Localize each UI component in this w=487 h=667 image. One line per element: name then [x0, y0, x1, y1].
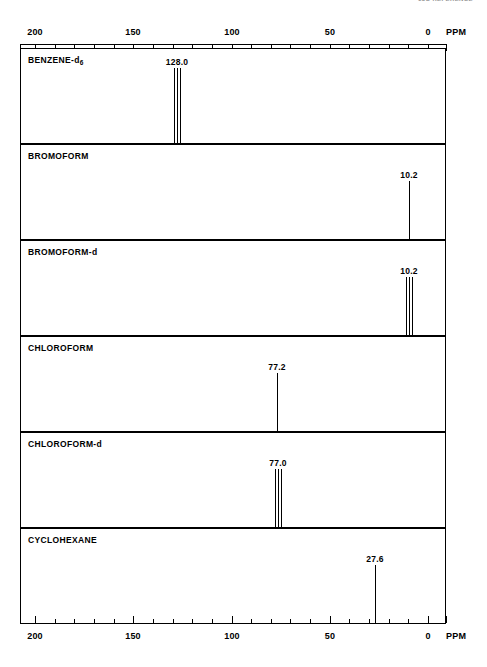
spectrum-peak-line: [281, 469, 282, 527]
axis-cap-right: [446, 44, 447, 51]
panel-compound-label: CYCLOHEXANE: [28, 535, 97, 545]
panel-compound-label: BROMOFORM: [28, 151, 89, 161]
spectrum-peak-line: [277, 373, 278, 431]
axis-tick-label: 0: [425, 631, 430, 641]
axis-tick-label: 50: [325, 27, 335, 37]
panel-compound-label: BENZENE-d6: [28, 55, 84, 65]
axis-unit-label: PPM: [446, 631, 466, 641]
axis-tick-minor: [310, 619, 311, 623]
axis-tick-minor: [192, 619, 193, 623]
bottom-axis: [20, 623, 446, 624]
axis-tick-label: 50: [325, 631, 335, 641]
spectrum-panel: CHLOROFORM-d77.0: [20, 432, 446, 528]
axis-tick-major: [428, 616, 429, 623]
panel-compound-label: CHLOROFORM-d: [28, 439, 102, 449]
axis-tick-minor: [408, 619, 409, 623]
axis-tick-major: [133, 616, 134, 623]
spectrum-peak-line: [406, 277, 407, 335]
spectrum-panel: CYCLOHEXANE27.6: [20, 528, 446, 624]
axis-tick-label: 200: [27, 27, 43, 37]
axis-tick-minor: [271, 619, 272, 623]
axis-cap-left: [20, 616, 21, 623]
axis-tick-minor: [94, 619, 95, 623]
axis-tick-label: 100: [224, 27, 240, 37]
axis-tick-major: [330, 616, 331, 623]
peak-shift-label: 128.0: [166, 57, 188, 67]
panel-compound-label: BROMOFORM-d: [28, 247, 97, 257]
spectrum-peak-line: [409, 277, 410, 335]
peak-shift-label: 10.2: [400, 266, 417, 276]
spectrum-peak-line: [177, 68, 178, 143]
axis-tick-minor: [290, 619, 291, 623]
peak-shift-label: 77.2: [268, 362, 285, 372]
axis-tick-minor: [251, 619, 252, 623]
spectrum-panel: BROMOFORM10.2: [20, 144, 446, 240]
axis-tick-minor: [212, 619, 213, 623]
axis-tick-label: 100: [224, 631, 240, 641]
peak-shift-label: 77.0: [269, 458, 286, 468]
axis-tick-minor: [389, 619, 390, 623]
nmr-reference-chart: 13C REFERENCE 200150100500PPM BENZENE-d6…: [0, 0, 487, 667]
spectrum-peak-line: [409, 181, 410, 239]
axis-tick-minor: [173, 619, 174, 623]
panel-compound-subscript: 6: [80, 59, 84, 66]
top-axis: [20, 44, 446, 45]
spectrum-panel: BENZENE-d6128.0: [20, 48, 446, 144]
axis-tick-minor: [153, 619, 154, 623]
axis-tick-minor: [114, 619, 115, 623]
axis-tick-minor: [369, 619, 370, 623]
header-note: 13C REFERENCE: [418, 0, 473, 3]
spectrum-peak-line: [278, 469, 279, 527]
axis-tick-label: 0: [425, 27, 430, 37]
axis-tick-major: [35, 616, 36, 623]
axis-tick-label: 150: [125, 27, 141, 37]
spectrum-peak-line: [180, 68, 181, 143]
peak-shift-label: 27.6: [366, 554, 383, 564]
axis-tick-minor: [55, 619, 56, 623]
spectrum-peak-line: [275, 469, 276, 527]
spectrum-peak-line: [412, 277, 413, 335]
spectrum-panel: BROMOFORM-d10.2: [20, 240, 446, 336]
axis-tick-label: 200: [27, 631, 43, 641]
axis-tick-label: 150: [125, 631, 141, 641]
spectrum-panel: CHLOROFORM77.2: [20, 336, 446, 432]
axis-cap-right: [446, 616, 447, 623]
spectrum-peak-line: [375, 565, 376, 623]
axis-tick-major: [232, 616, 233, 623]
panel-compound-label: CHLOROFORM: [28, 343, 93, 353]
peak-shift-label: 10.2: [400, 170, 417, 180]
axis-unit-label: PPM: [446, 27, 466, 37]
axis-tick-minor: [74, 619, 75, 623]
spectrum-peak-line: [174, 68, 175, 143]
axis-tick-minor: [349, 619, 350, 623]
